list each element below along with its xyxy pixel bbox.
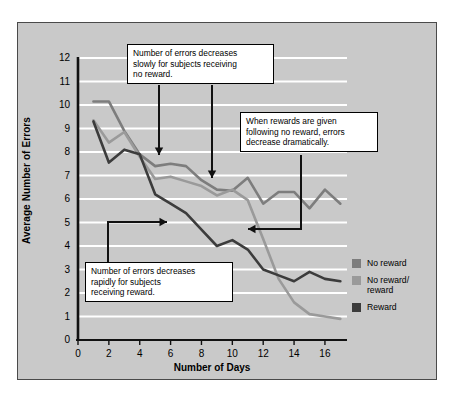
annotation-line: rapidly for subjects (91, 277, 227, 288)
annotation-line: receiving reward. (91, 287, 227, 298)
legend-swatch-reward (352, 303, 361, 312)
annotation-line: no reward. (133, 69, 268, 80)
y-tick-label: 11 (48, 77, 70, 87)
legend-item: No reward (352, 258, 438, 269)
annotation-reward-after-no-reward: When rewards are given following no rewa… (240, 112, 378, 152)
x-tick-label: 14 (284, 348, 304, 359)
y-tick-label: 5 (48, 218, 70, 228)
y-tick-label: 1 (48, 312, 70, 322)
annotation-no-reward: Number of errors decreases slowly for su… (127, 44, 274, 84)
x-tick-label: 12 (253, 348, 273, 359)
y-tick-label: 0 (48, 335, 70, 345)
y-tick-label: 7 (48, 171, 70, 181)
annotation-line: following no reward, errors (246, 127, 372, 138)
x-tick-label: 16 (315, 348, 335, 359)
y-tick-label: 12 (48, 53, 70, 63)
x-axis-label: Number of Days (78, 362, 346, 373)
annotation-line: When rewards are given (246, 116, 372, 127)
x-tick-label: 6 (161, 348, 181, 359)
chart-legend: No reward No reward/ reward Reward (352, 258, 438, 318)
annotation-line: slowly for subjects receiving (133, 59, 268, 70)
annotation-reward: Number of errors decreases rapidly for s… (85, 262, 233, 302)
annotation-line: decrease dramatically. (246, 137, 372, 148)
y-tick-label: 4 (48, 241, 70, 251)
y-axis-label: Average Number of Errors (21, 91, 32, 271)
x-tick-label: 10 (222, 348, 242, 359)
y-tick-label: 8 (48, 147, 70, 157)
y-tick-label: 9 (48, 124, 70, 134)
legend-label: No reward/ reward (367, 275, 409, 296)
legend-label: Reward (367, 302, 397, 313)
legend-swatch-no-reward-reward (352, 276, 361, 285)
x-tick-label: 2 (99, 348, 119, 359)
legend-item: Reward (352, 302, 438, 313)
annotation-line: Number of errors decreases (91, 266, 227, 277)
y-tick-label: 3 (48, 265, 70, 275)
legend-label: No reward (367, 258, 407, 269)
chart-figure: Average Number of Errors Number of Days … (0, 0, 454, 401)
legend-swatch-no-reward (352, 259, 361, 268)
x-tick-label: 4 (130, 348, 150, 359)
y-tick-label: 2 (48, 288, 70, 298)
x-tick-label: 8 (191, 348, 211, 359)
x-tick-label: 0 (68, 348, 88, 359)
y-tick-label: 10 (48, 100, 70, 110)
legend-item: No reward/ reward (352, 275, 438, 296)
annotation-line: Number of errors decreases (133, 48, 268, 59)
y-tick-label: 6 (48, 194, 70, 204)
